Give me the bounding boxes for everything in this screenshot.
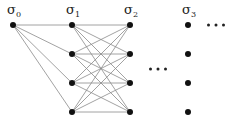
node-sigma1-3 <box>69 109 75 115</box>
layered-graph-diagram: σ0σ1σ2σ3 <box>0 0 240 120</box>
node-sigma2-1 <box>127 51 133 57</box>
node-sigma3-0 <box>185 22 191 28</box>
edge <box>13 25 72 83</box>
node-sigma2-2 <box>127 80 133 86</box>
node-sigma3-2 <box>185 80 191 86</box>
ellipsis-0 <box>149 68 167 71</box>
subscript: 3 <box>191 10 196 19</box>
sigma-symbol: σ <box>66 2 75 17</box>
node-sigma0-0 <box>10 22 16 28</box>
subscript: 0 <box>16 10 21 19</box>
node-sigma3-1 <box>185 51 191 57</box>
subscript: 1 <box>75 10 80 19</box>
sigma-symbol: σ <box>182 2 191 17</box>
ellipsis-dot <box>222 24 225 27</box>
layer-label-sigma-3: σ3 <box>182 2 196 19</box>
subscript: 2 <box>133 10 138 19</box>
ellipsis-1 <box>207 24 225 27</box>
ellipsis-dot <box>164 68 167 71</box>
ellipsis-dot <box>215 24 218 27</box>
ellipsis-dot <box>149 68 152 71</box>
node-sigma1-1 <box>69 51 75 57</box>
node-sigma3-3 <box>185 109 191 115</box>
node-sigma2-0 <box>127 22 133 28</box>
ellipsis-dot <box>157 68 160 71</box>
node-sigma1-0 <box>69 22 75 28</box>
layer-label-sigma-1: σ1 <box>66 2 80 19</box>
edge <box>13 25 72 54</box>
layer-labels: σ0σ1σ2σ3 <box>7 2 196 19</box>
node-sigma1-2 <box>69 80 75 86</box>
edges <box>13 25 130 112</box>
node-sigma2-3 <box>127 109 133 115</box>
edge <box>13 25 72 112</box>
sigma-symbol: σ <box>124 2 133 17</box>
sigma-symbol: σ <box>7 2 16 17</box>
layer-label-sigma-0: σ0 <box>7 2 21 19</box>
ellipsis-dot <box>207 24 210 27</box>
layer-label-sigma-2: σ2 <box>124 2 138 19</box>
ellipses <box>149 24 225 71</box>
